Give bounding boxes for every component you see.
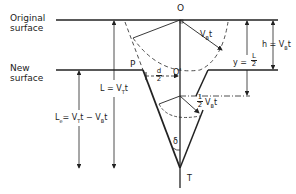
y-fraction: L2	[250, 53, 258, 68]
erosion-cone-diagram	[0, 0, 296, 194]
perpendicular-O	[133, 20, 180, 38]
cone-wall-left	[143, 70, 180, 168]
point-O-prime-label: O'	[173, 68, 182, 78]
h-label: h = VBt	[262, 40, 291, 53]
point-O-label: O	[177, 3, 184, 13]
point-P-label: P	[130, 59, 135, 69]
cone-wall-right-lower	[180, 110, 203, 168]
vbt-label: VBt	[200, 30, 212, 43]
perpendicular-O-prime	[159, 96, 180, 104]
original-surface-label-1: Original	[10, 13, 45, 23]
original-surface-label-2: surface	[10, 23, 43, 33]
y-label: y =	[233, 58, 247, 68]
half-fraction: 12	[196, 94, 204, 109]
Le-label: Le= VTt − VBt	[55, 113, 107, 126]
half-vbt-label: VBt	[205, 98, 217, 111]
d-half-fraction: d2	[155, 68, 163, 83]
L-label: L = VTt	[100, 84, 128, 97]
angle-delta-label: δ	[173, 137, 178, 147]
new-surface-label-1: New	[10, 63, 30, 73]
point-T-label: T	[187, 174, 192, 184]
new-surface-label-2: surface	[10, 73, 43, 83]
